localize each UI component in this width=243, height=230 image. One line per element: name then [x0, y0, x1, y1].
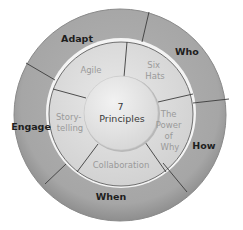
principles-wheel-diagram: 7 Principles Agile Six Hats The Power of… — [0, 0, 243, 230]
segment-how: How — [192, 140, 215, 151]
segment-agile: Agile — [80, 65, 101, 75]
segment-six-hats: Six Hats — [145, 60, 165, 81]
segment-storytelling: Story- telling — [56, 112, 84, 133]
segment-when: When — [96, 191, 127, 202]
segment-engage: Engage — [11, 121, 51, 132]
segment-collaboration: Collaboration — [93, 160, 150, 170]
segment-adapt: Adapt — [61, 33, 93, 44]
segment-who: Who — [175, 46, 199, 57]
